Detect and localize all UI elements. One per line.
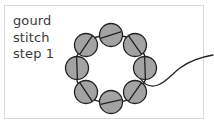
caption-line-1: gourd xyxy=(13,13,83,30)
figure-panel: gourd stitch step 1 xyxy=(0,0,214,130)
bead-top-right xyxy=(124,34,147,57)
bead-top xyxy=(100,24,123,47)
bead-bottom-right xyxy=(124,81,147,104)
bead-bottom xyxy=(100,91,123,114)
caption-line-3: step 1 xyxy=(13,46,83,63)
bead-right xyxy=(134,57,157,80)
caption-block: gourd stitch step 1 xyxy=(13,13,83,63)
caption-line-2: stitch xyxy=(13,30,83,47)
bead-right-thread xyxy=(145,57,146,80)
bead-bottom-left xyxy=(75,81,98,104)
